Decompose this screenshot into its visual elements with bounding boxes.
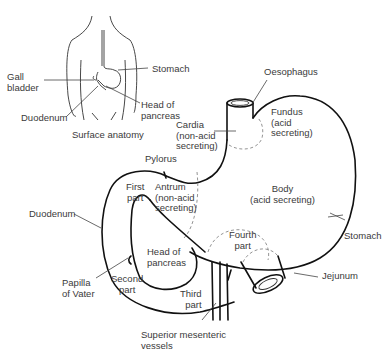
pointer-inset-duodenum bbox=[66, 86, 98, 117]
label-third-part: Third part bbox=[180, 289, 202, 310]
label-oesophagus: Oesophagus bbox=[264, 67, 318, 78]
jejunum-tube bbox=[241, 256, 285, 297]
pointer-inset-stomach bbox=[118, 68, 148, 70]
surface-anatomy-torso bbox=[67, 16, 137, 120]
label-inset-gall-bladder: Gall bladder bbox=[7, 72, 39, 93]
superior-mesenteric-vessels bbox=[212, 262, 231, 320]
label-pylorus: Pylorus bbox=[145, 154, 177, 165]
label-body: Body (acid secreting) bbox=[250, 184, 315, 205]
label-fundus: Fundus (acid secreting) bbox=[271, 107, 313, 139]
cardia-boundary bbox=[229, 118, 263, 149]
label-stomach: Stomach bbox=[344, 231, 382, 242]
label-inset-duodenum: Duodenum bbox=[21, 113, 67, 124]
label-second-part: Second part bbox=[111, 274, 143, 295]
pointer-jejunum bbox=[294, 273, 318, 277]
pointer-inset-head-pancreas bbox=[106, 86, 140, 103]
label-cardia: Cardia (non-acid secreting) bbox=[176, 120, 218, 152]
label-antrum: Antrum (non-acid secreting) bbox=[155, 182, 197, 214]
pointer-oesophagus bbox=[252, 80, 267, 104]
label-inset-head-of-pancreas: Head of pancreas bbox=[141, 100, 180, 121]
pointer-duodenum bbox=[74, 214, 101, 228]
label-head-of-pancreas: Head of pancreas bbox=[147, 247, 186, 268]
label-fourth-part: Fourth part bbox=[229, 230, 256, 251]
label-papilla-of-vater: Papilla of Vater bbox=[62, 278, 95, 299]
label-jejunum: Jejunum bbox=[322, 271, 358, 282]
inset-caption: Surface anatomy bbox=[72, 130, 144, 141]
label-inset-stomach: Stomach bbox=[152, 64, 190, 75]
label-superior-mesenteric-vessels: Superior mesenteric vessels bbox=[141, 330, 226, 351]
label-duodenum: Duodenum bbox=[29, 209, 75, 220]
label-first-part: First part bbox=[126, 182, 144, 203]
